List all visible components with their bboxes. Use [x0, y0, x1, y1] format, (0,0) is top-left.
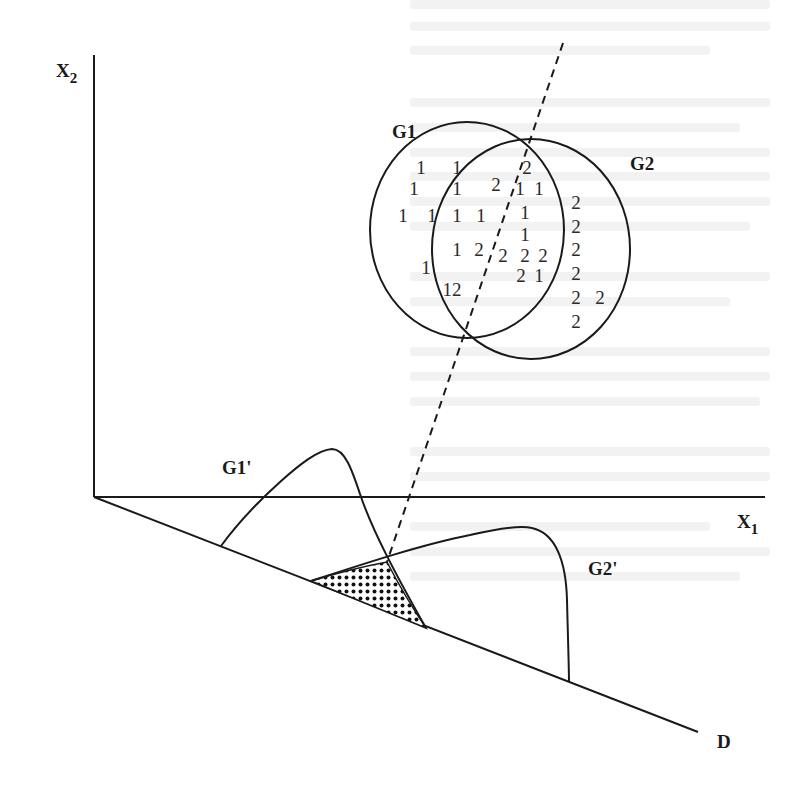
observation-point-group-1: 1: [421, 257, 431, 278]
observation-point-group-1: 1: [398, 205, 408, 226]
g1-ellipse: [370, 122, 564, 338]
observation-point-group-1: 1: [520, 202, 530, 223]
d-axis-label: D: [717, 731, 731, 752]
observation-point-group-2: 2: [522, 157, 532, 178]
observation-point-group-mixed: 12: [443, 279, 462, 300]
observation-point-group-1: 1: [409, 178, 419, 199]
g2-prime-distribution-curve: [311, 527, 569, 682]
observation-point-group-1: 1: [520, 224, 530, 245]
observation-point-group-1: 1: [452, 178, 462, 199]
observation-point-group-1: 1: [452, 239, 462, 260]
g2-prime-label: G2': [588, 558, 618, 579]
observation-point-group-1: 1: [427, 205, 437, 226]
observation-point-group-2: 2: [516, 265, 526, 286]
observation-point-group-2: 2: [571, 263, 581, 284]
observation-point-group-2: 2: [571, 287, 581, 308]
observation-points: 1121121111111112222121122222222: [398, 157, 605, 332]
observation-point-group-1: 1: [534, 265, 544, 286]
observation-point-group-2: 2: [498, 245, 508, 266]
observation-point-group-2: 2: [520, 245, 530, 266]
x2-axis-label: X2: [56, 60, 77, 86]
observation-point-group-1: 1: [534, 178, 544, 199]
observation-point-group-2: 2: [595, 287, 605, 308]
x1-axis-label: X1: [737, 511, 758, 537]
observation-point-group-1: 1: [452, 157, 462, 178]
observation-point-group-1: 1: [476, 205, 486, 226]
observation-point-group-2: 2: [571, 239, 581, 260]
g1-label: G1: [392, 121, 416, 142]
observation-point-group-1: 1: [515, 178, 525, 199]
observation-point-group-2: 2: [571, 311, 581, 332]
g2-label: G2: [630, 153, 654, 174]
axes: [94, 55, 765, 732]
observation-point-group-1: 1: [452, 205, 462, 226]
observation-point-group-1: 1: [416, 157, 426, 178]
observation-point-group-2: 2: [491, 174, 501, 195]
observation-point-group-2: 2: [571, 216, 581, 237]
g1-prime-label: G1': [222, 457, 252, 478]
discriminant-diagram: X2 X1 D G1 G2 G1' G2' 112112111111111222…: [0, 0, 804, 793]
overlap-shaded-region: [311, 562, 426, 628]
observation-point-group-2: 2: [538, 245, 548, 266]
observation-point-group-2: 2: [571, 192, 581, 213]
observation-point-group-2: 2: [474, 239, 484, 260]
